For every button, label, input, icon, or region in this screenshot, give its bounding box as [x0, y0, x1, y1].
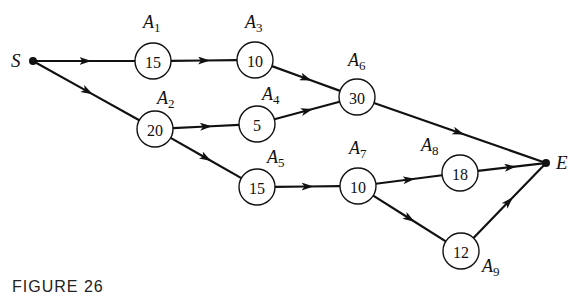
node-a5: 15A5 [239, 147, 285, 205]
edge-a4-a6 [274, 102, 339, 120]
node-duration: 15 [145, 54, 161, 71]
edge-a1-a3 [171, 60, 237, 61]
node-label: A8 [420, 135, 439, 158]
edge-a2-a5 [171, 138, 242, 178]
terminals: SE [11, 50, 568, 173]
node-a4: 5A4 [239, 84, 280, 142]
node-a1: 15A1 [135, 12, 171, 79]
edge-a2-a4 [173, 125, 239, 128]
edge-a3-a6 [272, 66, 340, 91]
node-label: A6 [347, 50, 366, 73]
node-duration: 10 [247, 53, 263, 70]
node-duration: 15 [249, 180, 265, 197]
node-label: A5 [266, 147, 285, 170]
node-label: A9 [481, 256, 500, 279]
node-a6: 30A6 [339, 50, 375, 115]
edge-a9-e [474, 165, 544, 238]
edge-a7-a9 [373, 196, 446, 242]
node-duration: 10 [350, 179, 366, 196]
node-label: A4 [261, 84, 280, 107]
edge-s-a2 [36, 62, 140, 120]
start-node-dot [29, 57, 37, 65]
node-label: A2 [156, 88, 175, 111]
node-label: A7 [348, 138, 367, 161]
node-label: A3 [244, 12, 263, 35]
edge-a6-e [374, 103, 543, 162]
node-duration: 20 [147, 122, 163, 139]
edges [36, 60, 544, 241]
end-node-dot [542, 159, 550, 167]
edge-a7-a8 [376, 175, 442, 183]
node-duration: 5 [253, 117, 261, 134]
node-label: A1 [142, 12, 161, 35]
node-a8: 18A8 [420, 135, 478, 191]
node-duration: 12 [453, 244, 469, 261]
end-node-label: E [555, 152, 568, 173]
node-a3: 10A3 [237, 12, 273, 78]
edge-a5-a7 [275, 186, 340, 187]
figure-caption: FIGURE 26 [12, 278, 104, 296]
node-a9: 12A9 [443, 233, 500, 279]
node-duration: 30 [349, 90, 365, 107]
node-a2: 20A2 [137, 88, 175, 147]
node-duration: 18 [452, 166, 468, 183]
edge-a8-e [478, 163, 543, 171]
node-a7: 10A7 [340, 138, 376, 204]
start-node-label: S [11, 50, 21, 71]
nodes: 15A120A210A35A415A530A610A718A812A9 [135, 12, 500, 279]
